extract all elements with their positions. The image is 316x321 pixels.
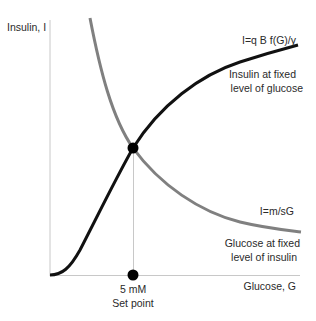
glucose-curve (90, 18, 301, 232)
intersection-dot (128, 143, 139, 154)
diagram-canvas (0, 0, 316, 321)
set-point-label: Set point (108, 297, 158, 310)
insulin-curve-caption-1: Insulin at fixed (229, 68, 296, 81)
set-point-dot (128, 270, 139, 281)
glucose-curve-equation: I=m/sG (260, 205, 294, 218)
insulin-curve-equation: I=q B f(G)/γ (242, 34, 296, 47)
glucose-curve-caption-2: level of insulin (231, 251, 297, 264)
set-point-value: 5 mM (113, 283, 153, 296)
y-axis-label: Insulin, I (7, 21, 46, 34)
glucose-curve-caption-1: Glucose at fixed (225, 237, 300, 250)
insulin-curve-caption-2: level of glucose (231, 82, 303, 95)
x-axis-label: Glucose, G (243, 280, 296, 293)
